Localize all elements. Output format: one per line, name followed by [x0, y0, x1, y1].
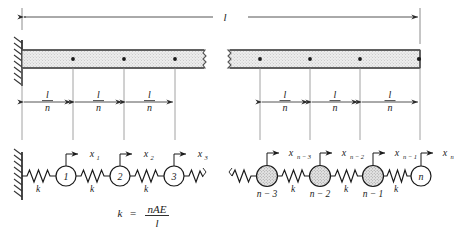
stiffness-formula: k = nAE l [118, 203, 169, 229]
segment-length-numerator: l [148, 89, 151, 100]
mass-node-1: 1 [56, 166, 76, 186]
figure-canvas: l [0, 0, 461, 233]
segment-length-denominator: n [147, 102, 152, 113]
segment-length-denominator: n [45, 102, 50, 113]
mass-node-n-1: n − 1 [363, 166, 384, 200]
mass-label-inside: n [419, 171, 424, 182]
displacement-symbol: x [197, 148, 203, 159]
mass-node-n-2: n − 2 [310, 166, 331, 200]
node-dot-n [417, 57, 421, 61]
segment-length-denominator: n [283, 102, 288, 113]
mass-label-below: n − 2 [310, 189, 331, 199]
spring-stiffness-label: k [90, 184, 95, 194]
spring-mass-n-1-to-n: k [384, 170, 412, 194]
spring-wall-to-mass-1: k [22, 170, 56, 194]
segment-dimension: l n [262, 89, 308, 113]
segment-length-numerator: l [334, 89, 337, 100]
displacement-symbol: x [341, 147, 347, 158]
segment-dimension: l n [126, 89, 173, 113]
mass-node-n: n [411, 166, 431, 186]
displacement-subscript: n − 2 [350, 153, 365, 160]
spring-stiffness-label: k [394, 184, 399, 194]
lower-wall-support [14, 149, 22, 200]
spring-stiffness-label: k [291, 184, 296, 194]
displacement-symbol: x [394, 147, 400, 158]
formula-denominator: l [155, 217, 158, 229]
mass-label-below: n − 3 [257, 189, 278, 199]
spring-mass-n-2-to-n-1: k [331, 170, 363, 194]
overall-length-label: l [223, 11, 226, 23]
segment-length-numerator: l [284, 89, 287, 100]
spring-mass-n-3-to-n-2: k [278, 170, 310, 194]
displacement-symbol: x [143, 148, 149, 159]
displacement-subscript: 3 [203, 154, 208, 161]
upper-wall-support [14, 37, 22, 86]
formula-equals: = [130, 207, 136, 219]
mass-node-2: 2 [110, 166, 130, 186]
displacement-arrow-x3: x 3 [174, 148, 208, 166]
segment-length-denominator: n [96, 102, 101, 113]
bar-right-segment [228, 50, 421, 68]
spring-mass-2-to-3: k [130, 170, 164, 194]
segment-dimension: l n [362, 89, 418, 113]
displacement-arrow-xn-3: x n − 3 [267, 147, 312, 166]
spring-cut-left-end [184, 168, 206, 182]
mass-label-below: n − 1 [363, 189, 384, 199]
displacement-subscript: 1 [96, 154, 99, 161]
segment-dimensions: l n l n l n l n l n [24, 89, 418, 113]
segment-length-denominator: n [333, 102, 338, 113]
mass-label-inside: 3 [171, 171, 177, 182]
projection-lines [22, 68, 420, 140]
displacement-arrow-x1: x 1 [66, 148, 100, 166]
node-dot-1 [71, 57, 75, 61]
bar-left-segment [22, 50, 206, 68]
spring-stiffness-label: k [344, 184, 349, 194]
spring-stiffness-label: k [144, 184, 149, 194]
displacement-symbol: x [442, 147, 448, 158]
displacement-arrow-x2: x 2 [120, 148, 154, 166]
engineering-diagram: l [0, 0, 461, 233]
segment-length-numerator: l [46, 89, 49, 100]
displacement-arrow-xn-2: x n − 2 [320, 147, 365, 166]
segment-length-numerator: l [389, 89, 392, 100]
segment-length-denominator: n [388, 102, 393, 113]
node-dot-n-2 [308, 57, 312, 61]
displacement-symbol: x [89, 148, 95, 159]
overall-length-dimension: l [22, 8, 420, 44]
displacement-arrow-xn-1: x n − 1 [373, 147, 417, 166]
segment-dimension: l n [24, 89, 71, 113]
mass-label-inside: 1 [64, 171, 69, 182]
displacement-subscript: n [450, 153, 453, 160]
node-dot-n-3 [258, 57, 262, 61]
spring-mass-1-to-2: k [76, 170, 110, 194]
spring-stiffness-label: k [36, 184, 41, 194]
segment-dimension: l n [75, 89, 122, 113]
mass-node-3: 3 [164, 166, 184, 186]
node-dot-n-1 [358, 57, 362, 61]
mass-node-n-3: n − 3 [257, 166, 278, 200]
node-dot-3 [173, 57, 177, 61]
displacement-symbol: x [288, 147, 294, 158]
spring-cut-right-start [229, 168, 256, 182]
displacement-subscript: n − 1 [403, 153, 417, 160]
mass-label-inside: 2 [118, 171, 123, 182]
displacement-arrow-xn: x n [421, 147, 454, 166]
formula-lhs: k [118, 207, 124, 219]
segment-length-numerator: l [97, 89, 100, 100]
node-dot-2 [122, 57, 126, 61]
formula-numerator: nAE [148, 203, 167, 215]
displacement-subscript: n − 3 [297, 153, 312, 160]
displacement-subscript: 2 [150, 154, 154, 161]
segment-dimension: l n [312, 89, 358, 113]
